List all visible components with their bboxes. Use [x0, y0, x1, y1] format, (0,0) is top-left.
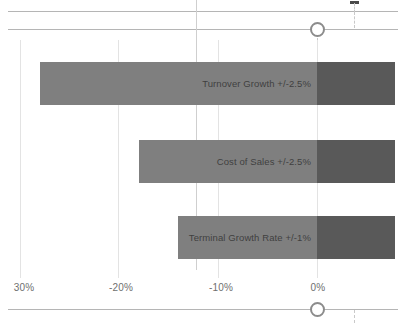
- bottom-rule: [8, 309, 398, 310]
- drag-handle-bottom[interactable]: [310, 302, 325, 317]
- axis-tick-label-zero: 0%: [311, 282, 326, 293]
- axis-tick-label-minus-30: 30%: [14, 282, 35, 293]
- bar-segment-high-cost-of-sales[interactable]: [317, 140, 395, 183]
- bar-label-turnover-growth: Turnover Growth +/-2.5%: [40, 62, 317, 105]
- bottom-connector-stub: [354, 310, 355, 323]
- gridline-minus-30: [20, 40, 21, 278]
- tornado-chart: Turnover Growth +/-2.5% Cost of Sales +/…: [0, 0, 406, 335]
- axis-tick-label-minus-10: -10%: [209, 282, 233, 293]
- top-rule-upper: [8, 11, 398, 12]
- bar-label-terminal-growth-rate: Terminal Growth Rate +/-1%: [148, 216, 317, 259]
- bar-segment-high-turnover-growth[interactable]: [317, 62, 395, 105]
- plot-area: Turnover Growth +/-2.5% Cost of Sales +/…: [0, 40, 406, 278]
- top-rule-lower: [8, 29, 398, 30]
- axis-tick-label-minus-20: -20%: [109, 282, 133, 293]
- top-connector-stub-lower: [354, 12, 355, 28]
- bar-label-cost-of-sales: Cost of Sales +/-2.5%: [139, 140, 317, 183]
- drag-handle-top[interactable]: [310, 22, 325, 37]
- x-axis-tick-labels: 30% -20% -10% 0%: [0, 282, 406, 298]
- bar-segment-high-terminal-growth-rate[interactable]: [317, 216, 395, 259]
